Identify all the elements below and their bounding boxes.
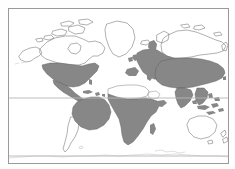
world-map [9,9,228,163]
map-figure [0,0,235,169]
map-frame [8,8,229,164]
